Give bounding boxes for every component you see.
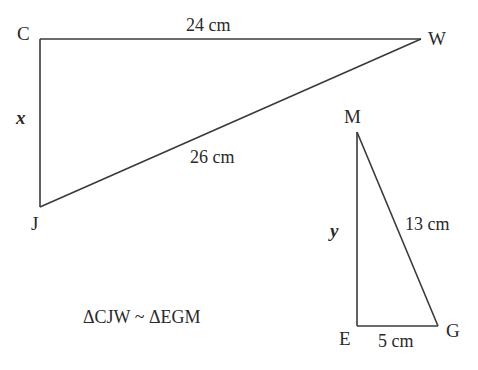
side-eg-measure: 5 cm: [378, 331, 414, 351]
vertex-m-label: M: [344, 106, 361, 127]
similar-triangles-diagram: C W J 24 cm 26 cm x M E G 13 cm 5 cm y Δ…: [0, 0, 478, 370]
side-em-variable: y: [328, 220, 339, 241]
side-jw: [40, 39, 421, 207]
vertex-w-label: W: [428, 28, 446, 49]
vertex-g-label: G: [446, 320, 460, 341]
side-cw-measure: 24 cm: [186, 15, 231, 35]
vertex-c-label: C: [17, 23, 30, 44]
side-mg-measure: 13 cm: [405, 214, 450, 234]
side-cj-variable: x: [15, 107, 26, 128]
triangle-cjw: [40, 39, 421, 207]
vertex-j-label: J: [31, 213, 38, 234]
side-jw-measure: 26 cm: [190, 147, 235, 167]
vertex-e-label: E: [339, 328, 351, 349]
similarity-statement: ΔCJW ~ ΔEGM: [83, 307, 201, 327]
